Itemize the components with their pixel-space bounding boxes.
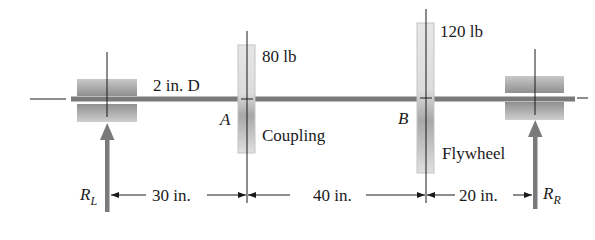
right-reaction-arrow <box>528 120 543 209</box>
point-b-label: B <box>398 110 408 127</box>
dimension-40-label: 40 in. <box>313 187 352 204</box>
right-reaction-label: RR <box>543 185 561 202</box>
dimension-20-label: 20 in. <box>459 187 498 204</box>
shaft <box>71 97 575 102</box>
left-reaction-arrow <box>100 123 115 212</box>
coupling-name-label: Coupling <box>262 127 325 144</box>
flywheel-weight-label: 120 lb <box>440 23 483 40</box>
right-reaction-subscript: R <box>553 193 560 207</box>
right-reaction-symbol: R <box>543 184 553 203</box>
coupling-weight-label: 80 lb <box>262 48 296 65</box>
shaft-diameter-label: 2 in. D <box>153 77 200 94</box>
dimension-30-label: 30 in. <box>152 187 191 204</box>
left-reaction-label: RL <box>80 186 97 203</box>
flywheel-name-label: Flywheel <box>442 145 505 162</box>
point-a-label: A <box>220 111 230 128</box>
left-reaction-symbol: R <box>80 185 90 204</box>
left-reaction-subscript: L <box>90 194 97 208</box>
